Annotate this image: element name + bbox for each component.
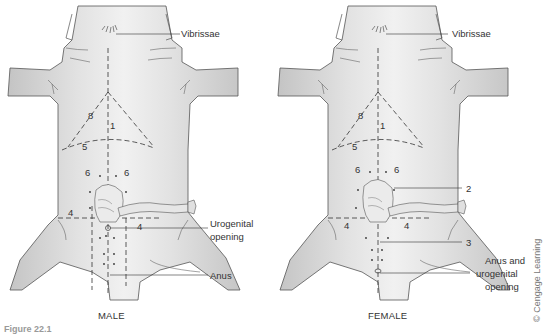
female-anus-label-line1: Anus and [485, 255, 525, 266]
female-incision-6-right: 6 [394, 164, 399, 175]
female-anus-label-line2: urogenital [476, 268, 518, 279]
male-incision-5: 5 [82, 141, 87, 152]
female-anus-label-line3: opening [485, 281, 519, 292]
female-rat [278, 6, 510, 300]
female-incision-4-left: 4 [344, 220, 349, 231]
female-incision-5: 5 [352, 141, 357, 152]
female-incision-4-right: 4 [404, 220, 409, 231]
figure-label: Figure 22.1 [4, 324, 52, 334]
female-incision-8: 8 [358, 110, 363, 121]
female-incision-6-left: 6 [355, 164, 360, 175]
male-incision-1: 1 [110, 120, 115, 131]
female-label-3: 3 [466, 237, 471, 248]
female-incision-1: 1 [380, 120, 385, 131]
male-anus-label: Anus [210, 270, 232, 281]
male-incision-6-left: 6 [85, 167, 90, 178]
female-vibrissae-label: Vibrissae [452, 28, 491, 39]
male-urogenital-label-line1: Urogenital [210, 218, 253, 229]
male-vibrissae-label: Vibrissae [181, 28, 220, 39]
female-label-2: 2 [466, 183, 471, 194]
male-incision-4-right: 4 [137, 221, 142, 232]
male-caption: MALE [98, 310, 125, 321]
female-caption: FEMALE [368, 310, 407, 321]
male-urogenital-label-line2: opening [210, 231, 244, 242]
male-rat [8, 6, 240, 300]
male-incision-6-right: 6 [124, 167, 129, 178]
copyright-credit: © Cengage Learning [532, 239, 542, 322]
male-incision-4-left: 4 [68, 207, 73, 218]
male-incision-8: 8 [88, 110, 93, 121]
